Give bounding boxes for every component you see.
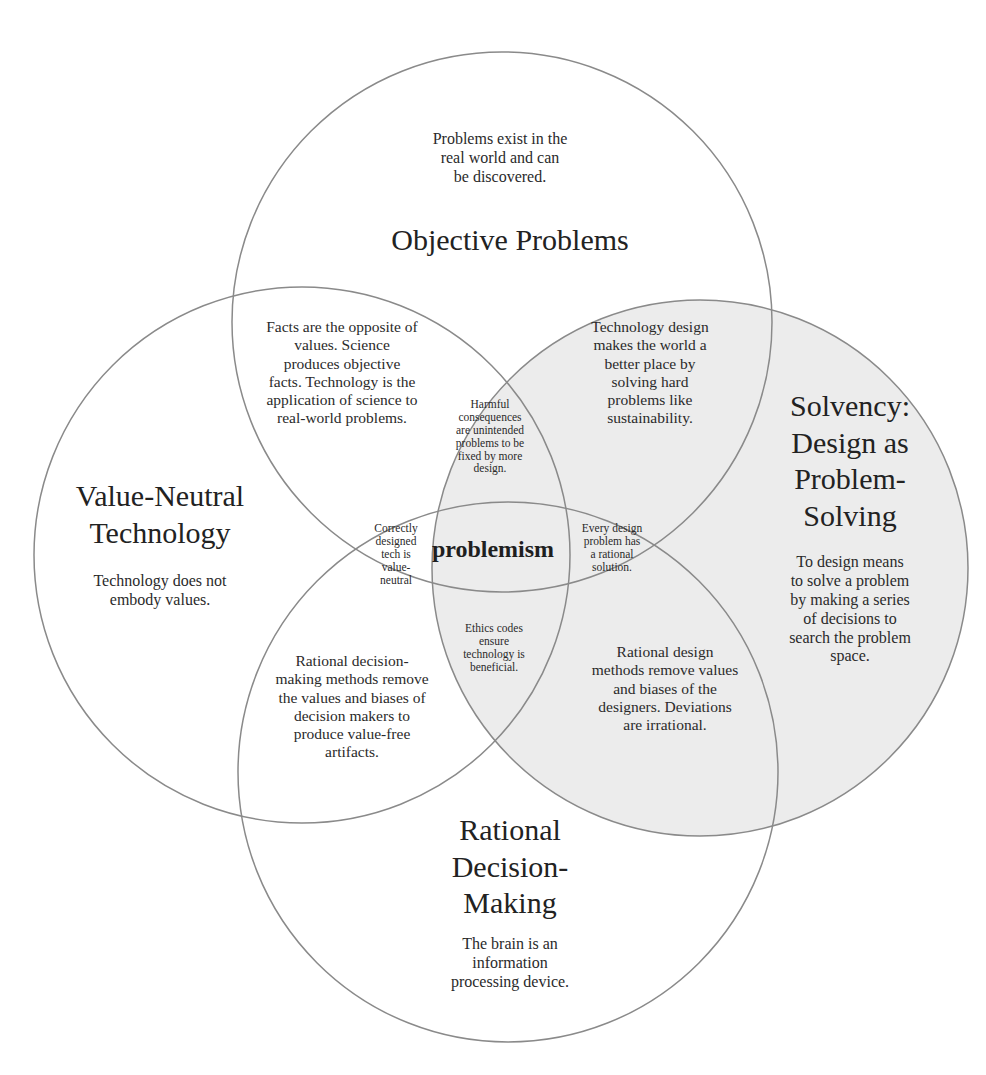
center-label-problemism: problemism [430,535,556,563]
intersection-valueneutral-solvency-rational: Ethics codes ensure technology is benefi… [452,622,536,674]
solvency-title: Solvency: Design as Problem- Solving [750,388,950,534]
rational-decision-making-title: Rational Decision- Making [410,812,610,922]
intersection-objective-solvency-rational: Every design problem has a rational solu… [572,522,652,574]
value-neutral-technology-description: Technology does not embody values. [60,572,260,610]
solvency-description: To design means to solve a problem by ma… [750,553,950,666]
objective-problems-description: Problems exist in the real world and can… [400,130,600,187]
intersection-objective-solvency-valueneutral: Harmful consequences are unintended prob… [440,398,540,475]
intersection-valueneutral-rational-objective: Correctly designed tech is value- neutra… [365,522,427,586]
intersection-solvency-rational: Rational design methods remove values an… [575,643,755,734]
intersection-objective-valueneutral: Facts are the opposite of values. Scienc… [244,318,440,428]
intersection-objective-solvency: Technology design makes the world a bett… [570,318,730,428]
value-neutral-technology-title: Value-Neutral Technology [50,478,270,551]
objective-problems-title: Objective Problems [330,222,690,259]
rational-decision-making-description: The brain is an information processing d… [410,935,610,992]
intersection-valueneutral-rational: Rational decision- making methods remove… [252,652,452,762]
